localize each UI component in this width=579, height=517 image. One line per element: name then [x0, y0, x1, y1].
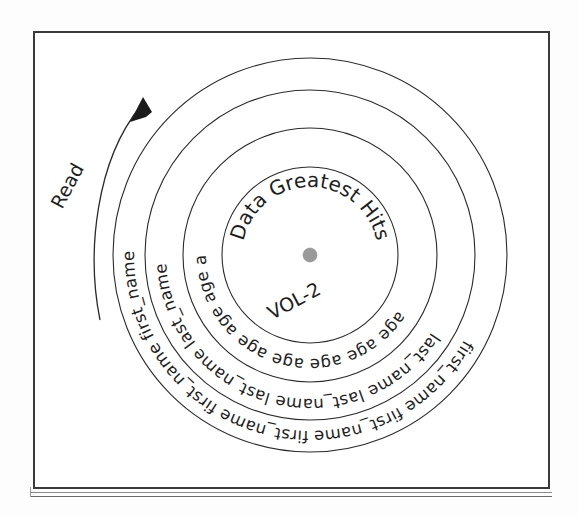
- read-direction-arrow-head: [130, 97, 152, 122]
- center-title: Data Greatest Hits: [225, 168, 395, 243]
- vinyl-record-diagram: first_name first_name first_name first_n…: [0, 0, 579, 517]
- volume-label: VOL-2: [264, 277, 325, 323]
- center-title-path: Data Greatest Hits: [225, 168, 395, 243]
- figure-page: first_name first_name first_name first_n…: [0, 0, 579, 517]
- spindle-hole: [303, 248, 317, 262]
- read-label: Read: [46, 159, 88, 211]
